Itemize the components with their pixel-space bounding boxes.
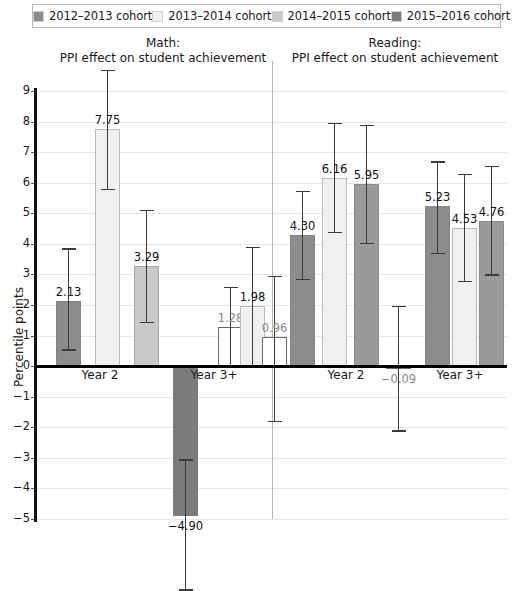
error-bar-cap <box>485 274 499 275</box>
y-axis-line <box>34 88 37 522</box>
error-bar-cap <box>62 248 76 249</box>
y-tick-label: 7 <box>4 144 30 158</box>
bar-value-label: 4.76 <box>469 205 515 219</box>
y-tick-label: 3 <box>4 266 30 280</box>
y-tick-label: 1 <box>4 328 30 342</box>
error-bar <box>491 166 492 275</box>
error-bar <box>252 247 253 365</box>
error-bar-cap <box>458 281 472 282</box>
error-bar <box>398 306 399 430</box>
error-bar <box>107 70 108 189</box>
bar-value-label: 5.95 <box>344 168 390 182</box>
y-tick-label: 8 <box>4 114 30 128</box>
error-bar-cap <box>179 589 193 590</box>
y-tick-label: 5 <box>4 205 30 219</box>
bar-value-label: 7.75 <box>85 113 131 127</box>
error-bar <box>146 210 147 323</box>
error-bar-cap <box>431 253 445 254</box>
y-tick-label: −3 <box>4 450 30 464</box>
error-bar <box>274 276 275 421</box>
error-bar <box>437 161 438 253</box>
bar-value-label: 5.23 <box>415 190 461 204</box>
error-bar-cap <box>392 306 406 307</box>
error-bar-cap <box>140 322 154 323</box>
y-tick-label: 4 <box>4 236 30 250</box>
bar-value-label: 2.13 <box>46 285 92 299</box>
error-bar <box>366 125 367 244</box>
error-bar-cap <box>392 430 406 431</box>
error-bar-cap <box>246 247 260 248</box>
group-label: Year 3+ <box>174 368 254 382</box>
error-bar-cap <box>268 276 282 277</box>
error-bar-cap <box>268 421 282 422</box>
error-bar-cap <box>140 210 154 211</box>
group-label: Year 2 <box>306 368 386 382</box>
error-bar-cap <box>485 166 499 167</box>
y-tick-label: 6 <box>4 175 30 189</box>
error-bar-cap <box>101 70 115 71</box>
y-tick-label: −5 <box>4 511 30 525</box>
gridline <box>37 519 507 520</box>
error-bar-cap <box>431 161 445 162</box>
bar-value-label: −4.90 <box>163 519 209 533</box>
error-bar <box>334 123 335 232</box>
error-bar-cap <box>296 191 310 192</box>
y-tick-label: 2 <box>4 297 30 311</box>
error-bar-cap <box>360 243 374 244</box>
error-bar <box>302 191 303 279</box>
y-tick-label: −2 <box>4 419 30 433</box>
error-bar-cap <box>62 349 76 350</box>
bar-value-label: 4.30 <box>280 219 326 233</box>
bar-value-label: 3.29 <box>124 250 170 264</box>
error-bar-cap <box>296 279 310 280</box>
y-tick-label: −1 <box>4 389 30 403</box>
group-label: Year 3+ <box>420 368 500 382</box>
group-label: Year 2 <box>60 368 140 382</box>
error-bar-cap <box>101 189 115 190</box>
y-tick-label: 0 <box>4 358 30 372</box>
error-bar-cap <box>458 174 472 175</box>
error-bar-cap <box>328 123 342 124</box>
error-bar-cap <box>224 287 238 288</box>
error-bar-cap <box>360 125 374 126</box>
y-tick-label: −4 <box>4 480 30 494</box>
error-bar-cap <box>328 232 342 233</box>
y-tick-label: 9 <box>4 83 30 97</box>
error-bar <box>464 174 465 281</box>
error-bar-cap <box>179 459 193 460</box>
bar-value-label: 1.98 <box>230 290 276 304</box>
